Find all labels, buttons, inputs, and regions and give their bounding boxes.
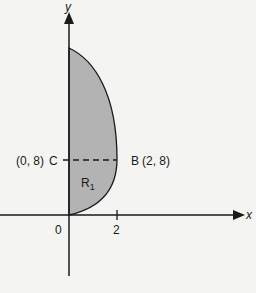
x-tick-label: 2 bbox=[113, 223, 120, 237]
region-label-subscript: 1 bbox=[90, 182, 95, 192]
point-b-coords: (2, 8) bbox=[142, 154, 170, 168]
point-c-coords: (0, 8) bbox=[16, 154, 44, 168]
y-axis-label: y bbox=[64, 0, 72, 14]
diagram-canvas: y x 0 2 (0, 8) C B (2, 8) R1 bbox=[0, 0, 256, 293]
x-axis-arrow-icon bbox=[233, 210, 245, 220]
region-label-main: R bbox=[81, 176, 90, 190]
point-b-label: B bbox=[131, 154, 139, 168]
origin-label: 0 bbox=[55, 223, 62, 237]
x-axis-label: x bbox=[245, 208, 253, 222]
point-c-label: C bbox=[49, 154, 58, 168]
